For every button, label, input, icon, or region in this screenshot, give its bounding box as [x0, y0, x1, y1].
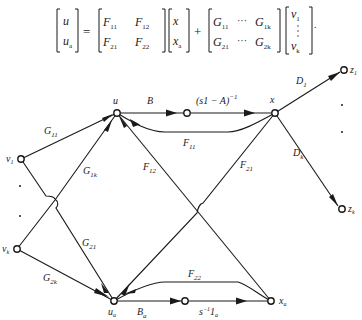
svg-text:D1: D1 — [295, 75, 307, 89]
node-ba-out — [182, 298, 188, 304]
node-v1: v1 — [6, 153, 24, 165]
node-vk: vk — [2, 243, 20, 255]
edge-B: B — [117, 95, 187, 117]
svg-text:Ba: Ba — [137, 306, 147, 320]
node-z1: z1 — [341, 64, 357, 76]
edge-Dk: Dk — [275, 113, 338, 206]
svg-text:zk: zk — [347, 203, 355, 215]
edge-D1: D1 — [275, 72, 340, 113]
node-u: u — [113, 95, 120, 116]
edge-Ba: Ba — [114, 298, 185, 320]
edge-F11: F11 — [117, 113, 275, 151]
svg-text:F22: F22 — [187, 268, 202, 282]
svg-text:ua: ua — [108, 306, 116, 318]
input-ellipsis — [19, 185, 21, 217]
svg-text:F12: F12 — [142, 161, 157, 175]
edge-resolvent: (s1 − A)−1 — [187, 93, 275, 117]
svg-text:x: x — [269, 94, 275, 105]
svg-text:s−11a: s−11a — [199, 306, 218, 318]
signal-flow-graph: B (s1 − A)−1 F11 F12 F21 F22 D1 Dk — [0, 0, 362, 320]
svg-text:xa: xa — [278, 295, 286, 307]
svg-text:vk: vk — [2, 243, 9, 255]
svg-text:u: u — [113, 95, 118, 106]
svg-text:Dk: Dk — [292, 147, 304, 161]
svg-text:G2k: G2k — [43, 272, 58, 286]
edge-G2k: G2k — [17, 249, 114, 301]
output-ellipsis — [341, 104, 343, 133]
edge-integrator: s−11a — [185, 298, 271, 319]
node-b-out — [184, 110, 190, 116]
svg-text:z1: z1 — [349, 64, 357, 76]
node-ua: ua — [108, 298, 117, 318]
svg-text:F11: F11 — [182, 137, 196, 151]
svg-text:G21: G21 — [82, 237, 96, 251]
svg-text:B: B — [147, 95, 153, 106]
node-zk: zk — [339, 203, 355, 215]
svg-text:F21: F21 — [239, 159, 253, 173]
node-xa: xa — [268, 295, 287, 307]
edge-G21: G21 — [21, 159, 114, 301]
svg-text:v1: v1 — [6, 153, 13, 165]
edge-G1k: G1k — [17, 113, 117, 249]
svg-text:(s1 − A)−1: (s1 − A)−1 — [196, 93, 237, 107]
svg-text:G1k: G1k — [83, 165, 98, 179]
edge-G11: G11 — [21, 113, 117, 159]
svg-text:G11: G11 — [44, 125, 58, 139]
